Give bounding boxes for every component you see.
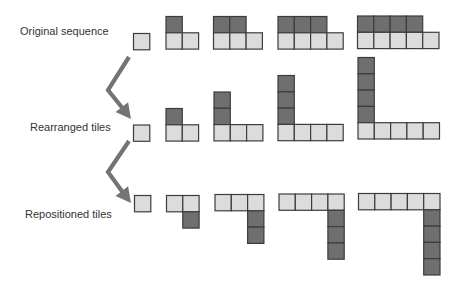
arrow-rearranged-to-repositioned-icon	[108, 141, 131, 203]
light-tile	[358, 123, 374, 139]
light-tile	[183, 196, 199, 212]
dark-tile	[294, 17, 310, 33]
light-tile	[247, 125, 263, 141]
tile-group-2	[166, 17, 199, 50]
tile-group-3	[214, 17, 263, 50]
light-tile	[279, 194, 295, 210]
light-tile	[375, 194, 391, 210]
dark-tile	[278, 92, 294, 108]
light-tile	[214, 33, 230, 49]
dark-tile	[358, 90, 374, 106]
light-tile	[248, 195, 264, 211]
tile-group-4	[279, 194, 344, 259]
dark-tile	[358, 74, 374, 90]
light-tile	[390, 32, 406, 48]
light-tile	[231, 195, 247, 211]
tile-group-5	[358, 16, 440, 49]
row-repositioned-tiles	[135, 194, 441, 276]
tile-group-5	[358, 58, 440, 140]
dark-tile	[374, 16, 390, 32]
dark-tile	[358, 106, 374, 122]
dark-tile	[424, 210, 440, 226]
tile-group-1	[135, 196, 151, 212]
light-tile	[182, 33, 198, 49]
light-tile	[230, 125, 246, 141]
light-tile	[423, 32, 439, 48]
dark-tile	[328, 227, 344, 243]
arrow-original-to-rearranged-icon	[108, 57, 131, 119]
light-tile	[230, 33, 246, 49]
dark-tile	[248, 227, 264, 243]
tile-group-3	[215, 195, 264, 244]
dark-tile	[424, 242, 440, 258]
light-tile	[311, 33, 327, 49]
light-tile	[134, 34, 150, 50]
tile-group-4	[278, 76, 343, 141]
light-tile	[312, 194, 328, 210]
light-tile	[278, 124, 294, 140]
light-tile	[215, 195, 231, 211]
dark-tile	[183, 212, 199, 228]
dark-tile	[248, 211, 264, 227]
dark-tile	[424, 226, 440, 242]
light-tile	[328, 194, 344, 210]
dark-tile	[166, 17, 182, 33]
light-tile	[327, 33, 343, 49]
dark-tile	[214, 92, 230, 108]
dark-tile	[358, 16, 374, 32]
light-tile	[327, 124, 343, 140]
dark-tile	[358, 58, 374, 74]
dark-tile	[214, 108, 230, 124]
dark-tile	[230, 17, 246, 33]
light-tile	[358, 32, 374, 48]
dark-tile	[278, 108, 294, 124]
dark-tile	[311, 17, 327, 33]
light-tile	[246, 33, 262, 49]
tile-group-1	[134, 34, 150, 50]
tile-group-5	[359, 194, 441, 276]
light-tile	[424, 194, 440, 210]
light-tile	[407, 123, 423, 139]
dark-tile	[424, 259, 440, 275]
row-rearranged-tiles	[134, 58, 440, 142]
row-original-sequence	[134, 16, 440, 50]
dark-tile	[406, 16, 422, 32]
dark-tile	[214, 17, 230, 33]
tile-group-1	[134, 125, 150, 141]
dark-tile	[390, 16, 406, 32]
light-tile	[278, 33, 294, 49]
light-tile	[167, 196, 183, 212]
light-tile	[295, 194, 311, 210]
light-tile	[391, 194, 407, 210]
light-tile	[407, 194, 423, 210]
light-tile	[294, 33, 310, 49]
light-tile	[423, 123, 439, 139]
tile-group-4	[278, 17, 343, 50]
light-tile	[359, 194, 375, 210]
light-tile	[166, 33, 182, 49]
light-tile	[214, 125, 230, 141]
light-tile	[135, 196, 151, 212]
light-tile	[134, 125, 150, 141]
dark-tile	[278, 17, 294, 33]
light-tile	[294, 124, 310, 140]
light-tile	[391, 123, 407, 139]
light-tile	[182, 125, 198, 141]
dark-tile	[166, 109, 182, 125]
dark-tile	[328, 243, 344, 259]
light-tile	[374, 32, 390, 48]
light-tile	[311, 124, 327, 140]
light-tile	[374, 123, 390, 139]
tile-group-2	[166, 109, 199, 142]
tile-diagram	[0, 0, 469, 285]
tile-group-3	[214, 92, 263, 141]
light-tile	[166, 125, 182, 141]
dark-tile	[278, 76, 294, 92]
tile-group-2	[167, 196, 200, 229]
light-tile	[406, 32, 422, 48]
dark-tile	[328, 210, 344, 226]
